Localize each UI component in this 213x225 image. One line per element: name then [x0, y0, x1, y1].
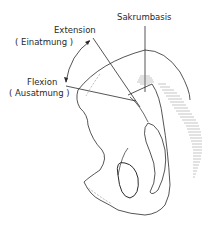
label-einatmung: ( Einatmung ) — [15, 38, 73, 47]
acetabulum-edge — [118, 148, 128, 175]
sacral-nutation-diagram: Sakrumbasis Extension ( Einatmung ) Flex… — [0, 0, 213, 225]
label-flexion: Flexion — [27, 78, 57, 87]
sciatic-notch-outline — [144, 123, 165, 194]
label-ausatmung: ( Ausatmung ) — [9, 89, 70, 98]
pelvis-illustration — [0, 0, 213, 225]
obturator-foramen — [117, 163, 138, 199]
ilium-left-contour — [77, 90, 105, 182]
rotation-arc — [66, 41, 90, 82]
label-extension: Extension — [54, 26, 96, 35]
flexion-axis-line — [66, 86, 136, 101]
pubis-dashed — [86, 186, 112, 204]
ischium-outline — [84, 182, 170, 215]
arrowhead-down-icon — [64, 77, 68, 83]
sacrum-top-hatching — [137, 76, 154, 84]
label-sakrumbasis: Sakrumbasis — [117, 13, 172, 22]
sacrum-inner-line — [130, 97, 148, 122]
